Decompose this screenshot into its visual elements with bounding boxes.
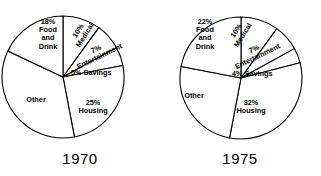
- slice-label-housing: 25% Housing: [70, 99, 116, 115]
- year-caption-1970: 1970: [0, 150, 160, 167]
- slice-label-other: Other: [174, 92, 214, 100]
- pie-chart-pair: 18% Food and Drink 10% Medical 7% Entert…: [0, 0, 321, 176]
- slice-label-housing: 32% Housing: [228, 99, 274, 115]
- chart-1970: 18% Food and Drink 10% Medical 7% Entert…: [0, 0, 160, 176]
- slice-label-savings: 5% Savings: [71, 69, 127, 77]
- chart-1975: 22% Food and Drink 10% Medical 7% Entert…: [160, 0, 320, 176]
- year-caption-1975: 1975: [160, 150, 320, 167]
- slice-label-savings: 4% Savings: [232, 70, 288, 78]
- slice-label-other: Other: [16, 96, 56, 104]
